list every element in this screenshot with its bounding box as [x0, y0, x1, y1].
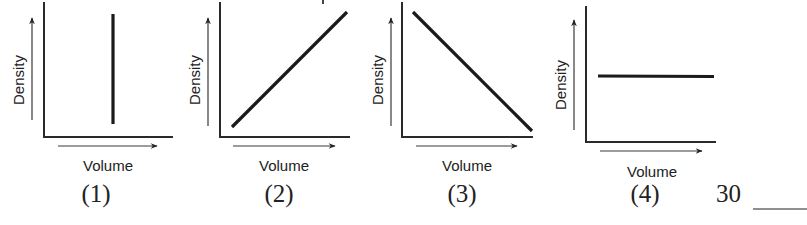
y-axis-label: Density [369, 54, 386, 105]
cut-off-text-fragment [322, 0, 324, 4]
graph-4-line [598, 76, 714, 77]
graph-4-axes [586, 6, 716, 142]
graph-1-axes [44, 2, 173, 137]
x-axis-label: Volume [627, 163, 677, 180]
y-axis-label: Density [10, 54, 27, 105]
question-number: 30 [716, 180, 741, 207]
graph-1-number: (1) [81, 180, 110, 208]
x-axis-label: Volume [259, 157, 309, 174]
x-axis-label: Volume [442, 157, 492, 174]
graph-4-number: (4) [630, 180, 659, 208]
graph-1: Density Volume (1) [10, 2, 173, 208]
graph-2-axes [220, 2, 350, 137]
density-volume-graphs: Density Volume (1) Density Volume (2) De… [0, 0, 807, 225]
graph-4: Density Volume (4) [552, 6, 716, 208]
graph-3-line [413, 12, 532, 131]
graph-3-number: (3) [447, 180, 476, 208]
graph-3: Density Volume (3) [369, 2, 533, 208]
graph-2: Density Volume (2) [186, 2, 350, 208]
graph-2-line [232, 12, 347, 127]
y-axis-label: Density [186, 54, 203, 105]
y-axis-label: Density [552, 59, 569, 110]
x-axis-label: Volume [83, 157, 133, 174]
graph-2-number: (2) [264, 180, 293, 208]
